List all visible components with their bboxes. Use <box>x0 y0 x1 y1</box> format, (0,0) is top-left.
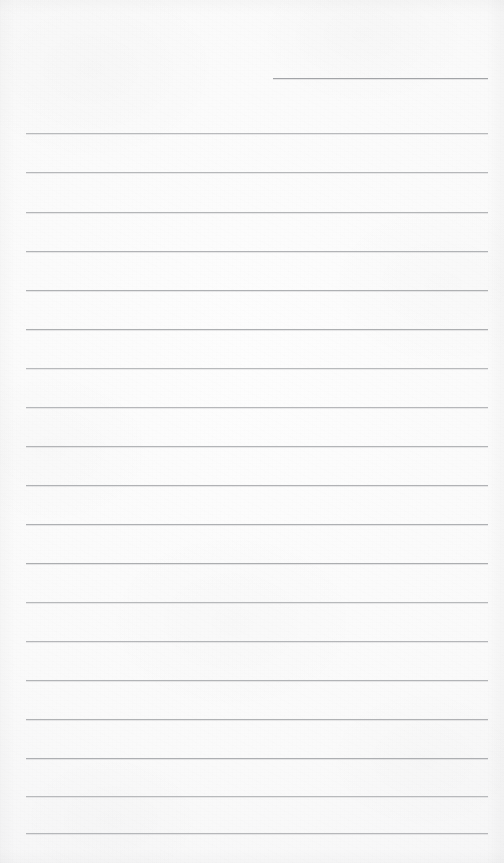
notepaper-page <box>0 0 504 863</box>
writing-area[interactable] <box>0 0 504 863</box>
